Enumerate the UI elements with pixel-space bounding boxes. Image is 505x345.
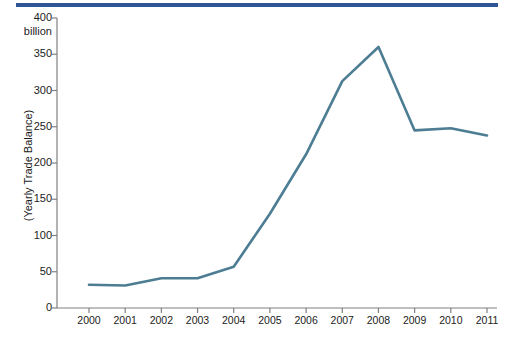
x-tick-label: 2004 bbox=[214, 315, 254, 326]
x-tick-label: 2003 bbox=[178, 315, 218, 326]
plot-area: billion 050100150200250300350400 2000200… bbox=[0, 0, 505, 345]
figure-caption bbox=[4, 337, 304, 345]
x-tick-label: 2001 bbox=[105, 315, 145, 326]
x-tick-label: 2007 bbox=[322, 315, 362, 326]
x-tick-label: 2006 bbox=[286, 315, 326, 326]
x-tick-label: 2008 bbox=[358, 315, 398, 326]
x-tick-label: 2000 bbox=[69, 315, 109, 326]
x-axis-tick-labels: 2000200120022003200420052006200720082009… bbox=[0, 0, 505, 345]
x-tick-label: 2011 bbox=[467, 315, 505, 326]
x-tick-label: 2005 bbox=[250, 315, 290, 326]
x-tick-label: 2010 bbox=[431, 315, 471, 326]
x-tick-label: 2002 bbox=[141, 315, 181, 326]
trade-balance-figure: billion 050100150200250300350400 2000200… bbox=[0, 0, 505, 345]
y-axis-title: (Yearly Trade Balance) bbox=[23, 76, 34, 256]
x-tick-label: 2009 bbox=[395, 315, 435, 326]
